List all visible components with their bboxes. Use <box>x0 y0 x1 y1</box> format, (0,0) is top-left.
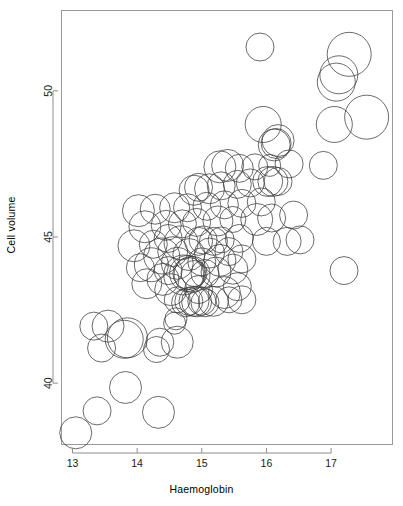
y-tick-label: 40 <box>43 377 55 389</box>
x-tick-label: 15 <box>196 457 208 469</box>
y-tick-label: 50 <box>43 85 55 97</box>
y-tick-label: 45 <box>43 231 55 243</box>
x-tick-label: 16 <box>261 457 273 469</box>
x-tick-label: 14 <box>131 457 143 469</box>
x-axis-title: Haemoglobin <box>0 483 403 495</box>
y-axis-title: Cell volume <box>5 170 17 280</box>
figure-background <box>0 0 403 506</box>
x-tick-label: 17 <box>325 457 337 469</box>
x-tick-label: 13 <box>67 457 79 469</box>
plot-svg: 1314151617 404550 <box>0 0 403 506</box>
bubble-chart-figure: 1314151617 404550 Haemoglobin Cell volum… <box>0 0 403 506</box>
